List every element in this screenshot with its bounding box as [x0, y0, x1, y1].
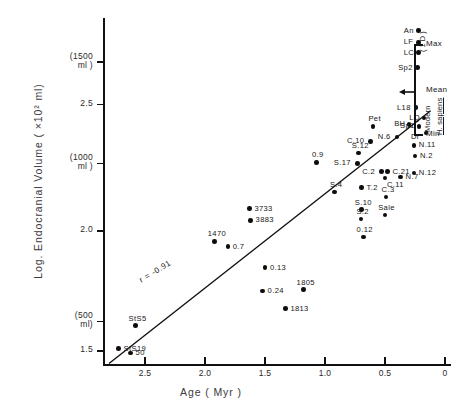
data-point [260, 289, 265, 294]
mean-label: Mean [426, 85, 447, 94]
data-point-label: 0.9 [312, 150, 324, 159]
x-tick-label: 0.5 [370, 368, 400, 378]
x-tick-mark [384, 357, 386, 364]
data-point-label: 0.24 [268, 286, 284, 295]
x-tick-mark [204, 357, 206, 364]
data-point [263, 265, 268, 270]
data-point-label: S.12 [352, 141, 369, 150]
data-point-label: N.7 [406, 172, 419, 181]
y-tick-mark [97, 350, 104, 352]
x-tick-label: 2.5 [130, 368, 160, 378]
data-point-label: N.11 [419, 140, 436, 149]
data-point-label: 0.7 [233, 242, 245, 251]
data-point-label: 1805 [297, 278, 315, 287]
data-point [212, 239, 217, 244]
data-point-label: Sale [378, 203, 395, 212]
data-point [379, 169, 384, 174]
data-point [356, 151, 361, 156]
data-point [412, 143, 417, 148]
data-point [116, 346, 121, 351]
data-point-label: 0.13 [270, 263, 286, 272]
data-point-label: Sp2 [398, 63, 413, 72]
data-point [226, 244, 231, 249]
data-point-label: 3883 [256, 215, 274, 224]
data-point-label: C.2 [362, 167, 375, 176]
data-point-label: 0.12 [357, 225, 373, 234]
y-tick-mark [97, 104, 104, 106]
y-tick-label: (500ml) [38, 311, 93, 330]
y-tick-mark [97, 321, 104, 323]
y-tick-mark [97, 230, 104, 232]
data-point-label: N.12 [419, 168, 436, 177]
x-tick-label: 1.5 [250, 368, 280, 378]
data-point [247, 206, 252, 211]
data-point-label: LF [404, 37, 414, 46]
data-point-label: StS5 [129, 314, 147, 323]
y-tick-mark [97, 61, 104, 63]
y-tick-label: (1000ml ) [38, 153, 93, 172]
x-tick-mark [324, 357, 326, 364]
data-point-label: T.2 [367, 183, 378, 192]
data-point-label: An [404, 26, 414, 35]
data-point [385, 169, 390, 174]
data-point [314, 160, 319, 165]
data-point-label: C.3 [382, 185, 395, 194]
y-tick-label: 1.5 [38, 345, 93, 355]
data-point-label: N.6 [378, 132, 391, 141]
data-point [359, 217, 364, 222]
data-point [248, 218, 253, 223]
data-point-label: S.10 [355, 198, 372, 207]
data-point [355, 161, 360, 166]
x-axis [103, 364, 451, 366]
x-tick-label: 1.0 [310, 368, 340, 378]
y-tick-label: 2.0 [38, 225, 93, 235]
data-point [395, 135, 400, 140]
sd-label: ( 1 D ) [418, 31, 427, 52]
data-point-label: 1470 [208, 229, 226, 238]
regression-equation-label: r = -0.91 [138, 258, 173, 284]
data-point [383, 213, 388, 218]
y-axis [103, 18, 105, 365]
x-tick-mark [444, 357, 446, 364]
x-tick-mark [264, 357, 266, 364]
data-point-label: S.2 [356, 207, 368, 216]
y-axis-title: Log. Endocranial Volume ( ×10² ml) [32, 61, 44, 301]
data-point [413, 154, 418, 159]
data-point-label: N.2 [420, 151, 433, 160]
x-tick-label: 0 [430, 368, 460, 378]
data-point-label: LC [404, 48, 414, 57]
data-point-label: 1813 [290, 304, 308, 313]
data-point-label: S.4 [330, 180, 342, 189]
mean-arrow-icon [399, 88, 415, 96]
data-point-label: 50 [136, 348, 145, 357]
chart-canvas: (1500ml )2.5(1000ml )2.0(500ml)1.5 2.52.… [0, 0, 464, 416]
data-point [301, 287, 306, 292]
data-point [361, 235, 366, 240]
data-point [128, 351, 133, 356]
data-point [133, 323, 138, 328]
data-point [417, 124, 422, 129]
y-tick-label: (1500ml ) [38, 52, 93, 71]
max-label: Max [426, 39, 442, 48]
data-point-label: S.17 [334, 158, 351, 167]
y-tick-label: 2.5 [38, 99, 93, 109]
x-tick-label: 2.0 [190, 368, 220, 378]
data-point [359, 185, 364, 190]
x-tick-mark [144, 357, 146, 364]
data-point-label: 3733 [254, 204, 272, 213]
data-point [283, 306, 288, 311]
data-point [332, 190, 337, 195]
data-point-label: L18 [397, 103, 411, 112]
modern-species-label: Modern [423, 105, 432, 132]
hsapiens-species-label: H. sapiens [435, 98, 444, 135]
data-point [384, 195, 389, 200]
data-point-label: Pet [368, 114, 380, 123]
data-point [368, 139, 373, 144]
data-point [371, 124, 376, 129]
bracket-arm-min [414, 134, 423, 136]
data-point-label: Sp1 [400, 121, 415, 130]
y-tick-mark [97, 163, 104, 165]
x-axis-title: Age ( Myr ) [180, 386, 242, 398]
data-point [398, 175, 403, 180]
